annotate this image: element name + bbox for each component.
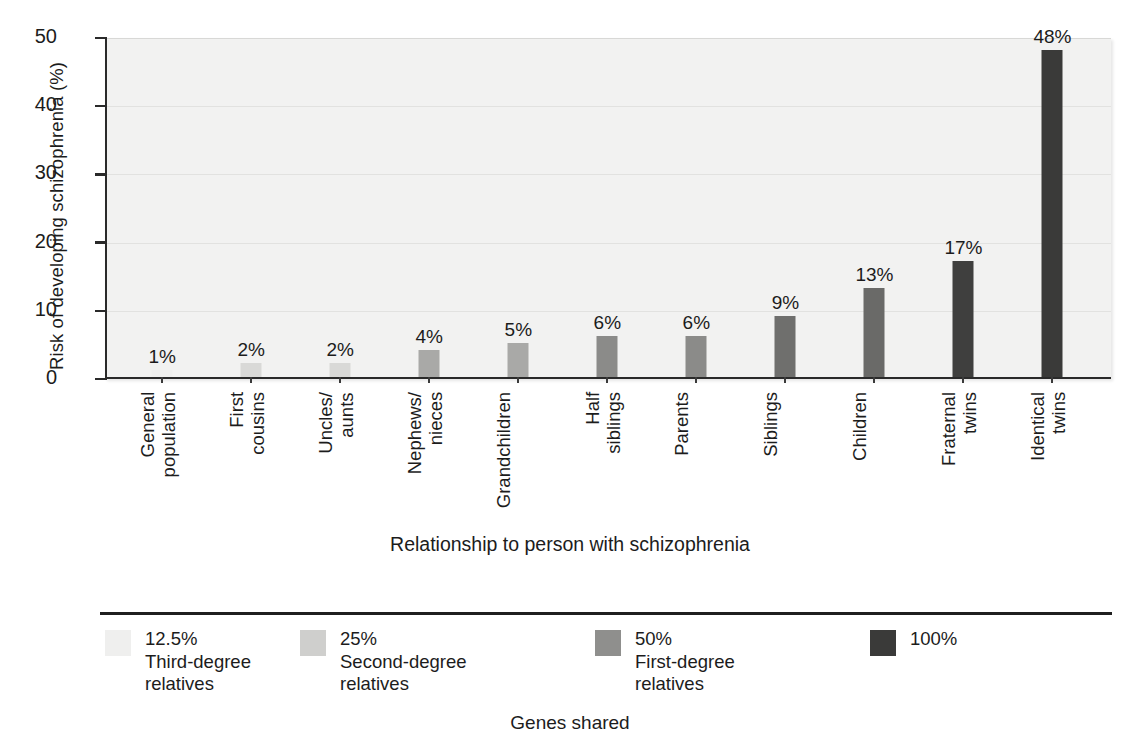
bar: 9% <box>775 316 796 377</box>
x-axis-category-label: Siblings <box>761 392 782 457</box>
x-axis-category-label: General population <box>138 392 179 477</box>
y-axis-tick <box>95 310 107 313</box>
y-axis-title: Risk of developing schizophrenia (%) <box>46 26 68 406</box>
x-axis-category-label: Grandchildren <box>494 392 515 508</box>
y-axis-tick-label: 20 <box>0 230 57 253</box>
x-axis-tick <box>695 377 697 383</box>
legend-item: 100% <box>870 628 957 656</box>
bar-value-label: 2% <box>327 339 354 361</box>
legend-label: 100% <box>910 628 957 651</box>
x-axis-category-label: Uncles/ aunts <box>316 392 357 454</box>
bar: 1% <box>152 370 173 377</box>
bar-value-label: 48% <box>1033 26 1071 48</box>
legend-label: 12.5% Third-degree relatives <box>145 628 251 696</box>
bar: 2% <box>241 363 262 377</box>
legend-item: 50% First-degree relatives <box>595 628 735 696</box>
legend-item: 25% Second-degree relatives <box>300 628 467 696</box>
x-axis-category-label: Nephews/ nieces <box>405 392 446 474</box>
plot-area: 010203040501%2%2%4%5%6%6%9%13%17%48% <box>105 38 1111 379</box>
x-axis-title: Relationship to person with schizophreni… <box>0 533 1140 556</box>
y-axis-tick-label: 10 <box>0 298 57 321</box>
bar: 2% <box>330 363 351 377</box>
legend-label: 25% Second-degree relatives <box>340 628 467 696</box>
bar: 6% <box>686 336 707 377</box>
x-axis-category-label: First cousins <box>227 392 268 455</box>
x-axis-tick <box>161 377 163 383</box>
bar: 17% <box>953 261 974 377</box>
legend-swatch <box>105 630 131 656</box>
legend-swatch <box>870 630 896 656</box>
bar-value-label: 4% <box>416 326 443 348</box>
gridline <box>107 174 1111 175</box>
legend: 12.5% Third-degree relatives25% Second-d… <box>100 628 1112 708</box>
bar: 13% <box>864 288 885 377</box>
y-axis-tick-label: 40 <box>0 93 57 116</box>
bar: 5% <box>508 343 529 377</box>
x-axis-category-label: Identical twins <box>1028 392 1069 461</box>
legend-divider <box>100 612 1112 615</box>
x-axis-tick <box>517 377 519 383</box>
x-axis-tick <box>250 377 252 383</box>
y-axis-tick <box>95 173 107 176</box>
x-axis-tick <box>784 377 786 383</box>
x-axis-tick <box>962 377 964 383</box>
y-axis-tick <box>95 105 107 108</box>
x-axis-category-label: Parents <box>672 392 693 456</box>
x-axis-tick <box>428 377 430 383</box>
bar-value-label: 6% <box>683 312 710 334</box>
bar-value-label: 1% <box>148 346 175 368</box>
bar: 4% <box>419 350 440 377</box>
gridline <box>107 106 1111 107</box>
y-axis-tick-label: 0 <box>0 366 57 389</box>
bar-value-label: 17% <box>944 237 982 259</box>
bar-value-label: 9% <box>772 292 799 314</box>
bar: 48% <box>1042 50 1063 377</box>
figure-caption: Genes shared <box>0 712 1140 734</box>
x-axis-tick <box>873 377 875 383</box>
legend-label: 50% First-degree relatives <box>635 628 735 696</box>
y-axis-tick <box>95 241 107 244</box>
x-axis-tick <box>606 377 608 383</box>
bar-value-label: 6% <box>594 312 621 334</box>
x-axis-category-label: Children <box>850 392 871 461</box>
x-axis-category-label: Half siblings <box>583 392 624 454</box>
x-axis-tick <box>1051 377 1053 383</box>
gridline <box>107 38 1111 39</box>
y-axis-tick-label: 30 <box>0 161 57 184</box>
y-axis-tick <box>95 37 107 40</box>
y-axis-tick <box>95 378 107 381</box>
bar: 6% <box>597 336 618 377</box>
bar-value-label: 5% <box>505 319 532 341</box>
chart-figure: Risk of developing schizophrenia (%) 010… <box>0 0 1140 753</box>
legend-item: 12.5% Third-degree relatives <box>105 628 251 696</box>
x-axis-category-label: Fraternal twins <box>939 392 980 466</box>
x-axis-tick <box>339 377 341 383</box>
bar-value-label: 2% <box>237 339 264 361</box>
y-axis-tick-label: 50 <box>0 25 57 48</box>
legend-swatch <box>300 630 326 656</box>
legend-swatch <box>595 630 621 656</box>
bar-value-label: 13% <box>855 264 893 286</box>
